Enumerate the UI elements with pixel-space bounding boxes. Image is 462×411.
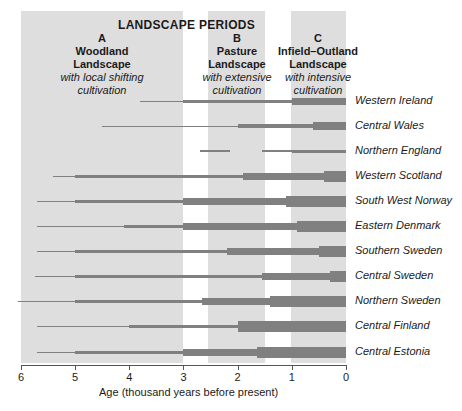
bar-segment [37,226,124,227]
bar-segment [262,150,292,152]
bar-segment [297,221,346,232]
x-tick-label: 2 [228,371,248,383]
x-tick-label: 3 [173,371,193,383]
period-letter: A [42,32,162,45]
row-label: Central Wales [355,119,424,131]
x-tick [75,365,76,370]
bar-segment [183,198,286,205]
bar-segment [18,301,75,302]
period-name: Landscape [258,58,378,71]
period-name: Woodland [42,45,162,58]
x-tick [346,365,347,370]
period-label-a: AWoodlandLandscapewith local shiftingcul… [42,32,162,97]
bar-segment [75,300,202,303]
bar-segment [35,276,76,277]
bar-segment [202,298,270,305]
bar-segment [313,122,346,130]
row-label: South West Norway [355,194,452,206]
bar-segment [183,100,291,103]
x-tick-label: 1 [282,371,302,383]
bar-segment [319,246,346,257]
bar-segment [75,175,243,178]
period-description: cultivation [42,84,162,97]
bar-segment [227,248,319,255]
bar-segment [286,196,346,207]
row-label: Central Estonia [355,345,430,357]
bar-segment [53,176,75,177]
bar-segment [183,223,297,230]
bar-segment [129,325,237,328]
bar-segment [292,150,346,153]
bar-segment [102,126,237,127]
bar-segment [324,171,346,182]
bar-segment [238,321,346,332]
bar-segment [140,101,183,102]
x-tick [21,365,22,370]
bar-segment [292,98,346,105]
period-label-c: CInfield–OutlandLandscapewith intensivec… [258,32,378,97]
bar-segment [183,349,256,356]
period-description: with local shifting [42,71,162,84]
bar-segment [75,250,227,253]
period-name: Landscape [42,58,162,71]
period-letter: C [258,32,378,45]
bar-segment [270,296,346,307]
bar-segment [37,251,75,252]
bar-segment [330,271,346,282]
x-tick-label: 4 [119,371,139,383]
bar-segment [243,173,324,180]
bar-segment [262,273,330,280]
bar-segment [75,275,262,278]
bar-segment [200,150,230,152]
row-label: Northern England [355,144,441,156]
row-label: Southern Sweden [355,244,442,256]
bar-segment [257,347,346,358]
x-tick-label: 5 [65,371,85,383]
x-tick-label: 6 [11,371,31,383]
period-description: with intensive [258,71,378,84]
x-tick-label: 0 [336,371,356,383]
period-name: Infield–Outland [258,45,378,58]
bar-segment [75,351,183,354]
x-tick [292,365,293,370]
x-tick [129,365,130,370]
row-label: Central Sweden [355,269,433,281]
row-label: Western Scotland [355,169,442,181]
x-tick [183,365,184,370]
landscape-periods-chart: LANDSCAPE PERIODS AWoodlandLandscapewith… [0,0,462,411]
row-label: Central Finland [355,319,430,331]
row-label: Northern Sweden [355,294,441,306]
row-label: Eastern Denmark [355,219,441,231]
bar-segment [124,225,184,228]
x-tick [238,365,239,370]
bar-segment [37,352,75,353]
bar-segment [37,201,75,202]
x-axis-label: Age (thousand years before present) [99,386,278,398]
row-label: Western Ireland [355,94,432,106]
bar-segment [75,200,183,203]
bar-segment [37,326,129,327]
bar-segment [238,124,314,128]
